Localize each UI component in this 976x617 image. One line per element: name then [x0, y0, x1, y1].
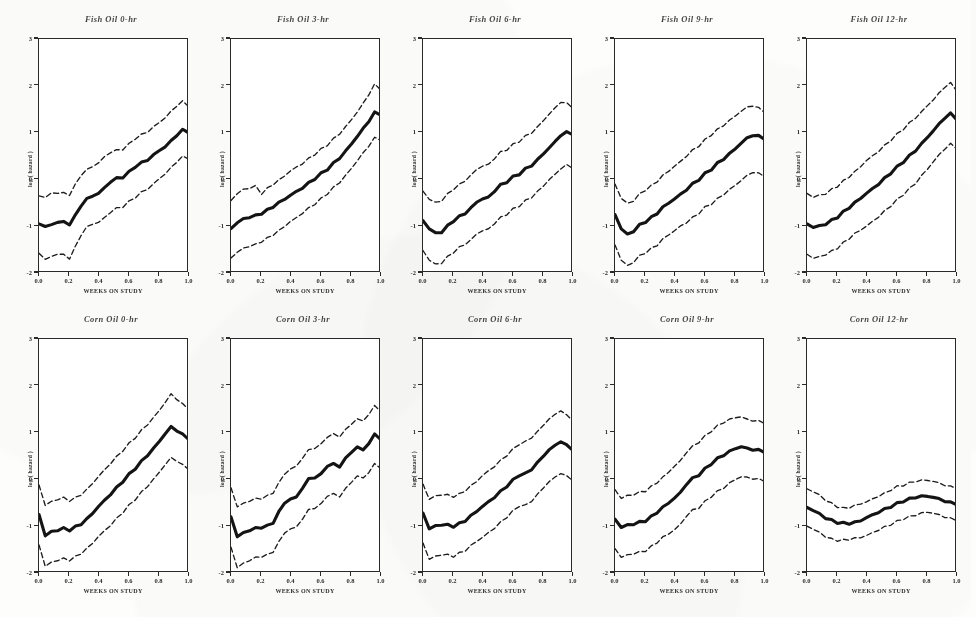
confidence-band-upper — [807, 480, 956, 509]
x-axis-tick-label: 0.0 — [413, 277, 433, 284]
x-axis-tick: 0.6 — [320, 572, 321, 576]
x-axis-tick-label: 1.0 — [563, 577, 583, 584]
plot-area — [230, 38, 380, 272]
confidence-band-lower — [423, 164, 572, 264]
x-axis-tick: 0.8 — [926, 572, 927, 576]
x-axis-tick-label: 0.6 — [119, 577, 139, 584]
x-axis-label: WEEKS ON STUDY — [230, 288, 380, 294]
x-axis-tick-label: 0.8 — [341, 577, 361, 584]
panel-title: Corn Oil 6-hr — [398, 314, 592, 324]
y-axis-tick-label: 1 — [797, 429, 800, 436]
x-axis-tick-mark — [422, 572, 423, 576]
x-axis-tick-label: 0.4 — [665, 577, 685, 584]
x-axis-tick-label: 0.2 — [443, 577, 463, 584]
x-axis-tick-mark — [542, 572, 543, 576]
y-axis-tick-label: -2 — [27, 269, 32, 276]
x-axis-tick-mark — [674, 272, 675, 276]
x-axis-label: WEEKS ON STUDY — [806, 288, 956, 294]
x-axis-tick: 0.0 — [422, 272, 423, 276]
y-axis-tick: 1 — [14, 131, 38, 132]
x-axis-tick-mark — [68, 572, 69, 576]
x-axis-tick: 0.6 — [128, 272, 129, 276]
y-axis-tick: 3 — [14, 38, 38, 39]
y-axis-tick: 0 — [782, 178, 806, 179]
x-axis-tick: 0.2 — [68, 272, 69, 276]
x-axis-tick-label: 1.0 — [947, 277, 967, 284]
x-axis-label: WEEKS ON STUDY — [230, 588, 380, 594]
x-axis-tick-label: 0.0 — [221, 577, 241, 584]
y-axis-tick-label: 3 — [413, 335, 416, 342]
y-axis-tick: -2 — [206, 272, 230, 273]
y-axis-tick: 1 — [398, 131, 422, 132]
y-axis-tick: 0 — [398, 478, 422, 479]
confidence-band-upper — [423, 411, 572, 499]
y-axis-tick-label: 3 — [221, 35, 224, 42]
y-axis-tick: -1 — [590, 525, 614, 526]
x-axis-tick-label: 0.0 — [605, 277, 625, 284]
y-axis-tick-label: 3 — [797, 335, 800, 342]
curve-canvas — [39, 39, 188, 272]
y-axis-tick: -1 — [14, 225, 38, 226]
confidence-band-upper — [615, 417, 764, 499]
x-axis-tick-label: 0.2 — [443, 277, 463, 284]
panel-title: Corn Oil 0-hr — [14, 314, 208, 324]
x-axis-tick-label: 0.4 — [89, 277, 109, 284]
x-axis-label: WEEKS ON STUDY — [422, 288, 572, 294]
chart-panel: Corn Oil 3-hr3210-1-2log ( hazard )0.00.… — [206, 300, 400, 608]
x-axis-tick-mark — [230, 572, 231, 576]
x-axis-tick-mark — [836, 272, 837, 276]
y-axis-tick-label: 2 — [797, 82, 800, 89]
y-axis-tick: -1 — [398, 225, 422, 226]
x-axis-tick: 0.4 — [674, 272, 675, 276]
y-axis-tick: 3 — [206, 338, 230, 339]
x-axis-tick-mark — [926, 272, 927, 276]
curve-canvas — [231, 339, 380, 572]
y-axis-tick-label: 2 — [221, 82, 224, 89]
confidence-band-lower — [231, 463, 380, 567]
y-axis: 3210-1-2log ( hazard ) — [206, 38, 230, 272]
x-axis: 0.00.20.40.60.81.0WEEKS ON STUDY — [422, 572, 572, 606]
y-axis-tick-label: 3 — [413, 35, 416, 42]
x-axis-tick-label: 0.4 — [857, 577, 877, 584]
x-axis-tick-mark — [188, 572, 189, 576]
x-axis-tick-mark — [350, 272, 351, 276]
panel-title: Fish Oil 3-hr — [206, 14, 400, 24]
confidence-band-lower — [807, 512, 956, 541]
y-axis-tick-label: 3 — [29, 35, 32, 42]
x-axis-tick-label: 0.2 — [635, 277, 655, 284]
y-axis-label: log ( hazard ) — [411, 439, 417, 499]
x-axis-tick: 1.0 — [188, 272, 189, 276]
y-axis-tick: 0 — [14, 178, 38, 179]
confidence-band-lower — [231, 137, 380, 258]
chart-panel: Corn Oil 12-hr3210-1-2log ( hazard )0.00… — [782, 300, 976, 608]
x-axis-tick: 0.2 — [836, 572, 837, 576]
chart-panel: Fish Oil 3-hr3210-1-2log ( hazard )0.00.… — [206, 0, 400, 308]
x-axis-tick: 0.2 — [452, 572, 453, 576]
y-axis-tick-label: 2 — [221, 382, 224, 389]
y-axis-tick-label: 2 — [605, 82, 608, 89]
fitted-curve — [231, 434, 380, 537]
x-axis-tick: 0.4 — [866, 272, 867, 276]
x-axis-tick-label: 1.0 — [371, 577, 391, 584]
y-axis-tick: 1 — [206, 431, 230, 432]
x-axis-tick-mark — [674, 572, 675, 576]
x-axis-tick-label: 0.4 — [473, 577, 493, 584]
x-axis-tick-mark — [572, 572, 573, 576]
y-axis-tick-label: -2 — [219, 569, 224, 576]
y-axis-tick-label: 2 — [797, 382, 800, 389]
y-axis-tick: 0 — [206, 178, 230, 179]
x-axis-tick-label: 0.8 — [533, 577, 553, 584]
x-axis-tick-mark — [482, 272, 483, 276]
x-axis-tick: 1.0 — [188, 572, 189, 576]
x-axis-tick: 0.0 — [38, 272, 39, 276]
x-axis-label: WEEKS ON STUDY — [422, 588, 572, 594]
x-axis-tick-mark — [158, 272, 159, 276]
x-axis-tick-mark — [866, 272, 867, 276]
y-axis-tick-label: 1 — [413, 129, 416, 136]
y-axis-tick-label: -1 — [603, 522, 608, 529]
x-axis-tick: 0.2 — [452, 272, 453, 276]
x-axis-tick-mark — [260, 572, 261, 576]
y-axis-tick: 2 — [782, 384, 806, 385]
figure-row-fish-oil: Fish Oil 0-hr3210-1-2log ( hazard )0.00.… — [0, 0, 971, 308]
x-axis-label: WEEKS ON STUDY — [38, 588, 188, 594]
